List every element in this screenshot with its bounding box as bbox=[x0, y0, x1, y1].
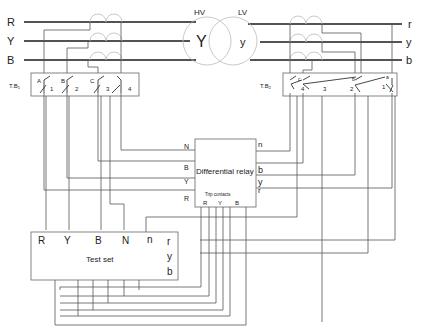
relay-trip-label: Trip contacts bbox=[205, 192, 231, 197]
lv-label: LV bbox=[238, 8, 248, 17]
test-set-bottom-wiring bbox=[78, 280, 139, 316]
relay-terminal-N: N bbox=[184, 143, 189, 150]
hv-winding-label: Y bbox=[196, 33, 207, 50]
lv-ct-wiring bbox=[290, 24, 392, 80]
trip-terminal-B: B bbox=[235, 200, 239, 206]
hv-label: HV bbox=[194, 8, 206, 17]
terminal-block-1 bbox=[31, 73, 139, 96]
tb1-label: T.B1 bbox=[9, 83, 21, 90]
hv-bus-lines bbox=[24, 22, 196, 60]
lv-bus-lines bbox=[248, 24, 402, 60]
relay-terminal-n: n bbox=[258, 140, 262, 149]
tb1-to-relay-wiring bbox=[44, 93, 195, 230]
bus-label-y: y bbox=[406, 36, 412, 48]
bus-label-b: b bbox=[406, 54, 412, 66]
tb1-letter-A: A bbox=[37, 78, 41, 84]
lv-winding-label: y bbox=[240, 36, 246, 48]
tb1-letter-C: C bbox=[90, 78, 95, 84]
test-terminal-B: B bbox=[95, 235, 102, 246]
relay-terminal-r: r bbox=[258, 186, 261, 195]
tb2-to-relay-wiring bbox=[146, 93, 395, 322]
bus-label-Y: Y bbox=[7, 35, 15, 47]
relay-terminal-R: R bbox=[184, 195, 189, 202]
bus-label-B: B bbox=[7, 54, 14, 66]
test-set-title: Test set bbox=[86, 255, 114, 264]
relay-terminal-Y: Y bbox=[184, 178, 189, 185]
tb1-letter-B: B bbox=[61, 78, 65, 84]
test-terminal-y: y bbox=[167, 251, 172, 262]
test-terminal-Y: Y bbox=[64, 235, 71, 246]
tb2-label: T.B2 bbox=[260, 83, 272, 90]
bus-label-R: R bbox=[7, 16, 15, 28]
trip-terminal-R: R bbox=[203, 200, 208, 206]
hv-ct-wiring bbox=[44, 22, 121, 80]
trip-terminal-Y: Y bbox=[218, 200, 222, 206]
test-terminal-N: N bbox=[122, 235, 129, 246]
hv-ct-coils bbox=[90, 14, 122, 60]
relay-terminal-b: b bbox=[258, 165, 263, 175]
tb2-letter-b: b bbox=[352, 76, 355, 82]
test-terminal-n: n bbox=[147, 234, 153, 245]
relay-title: Differential relay bbox=[196, 167, 254, 176]
test-terminal-R: R bbox=[38, 235, 45, 246]
lv-ct-coils bbox=[290, 16, 322, 60]
relay-terminal-B: B bbox=[184, 164, 189, 171]
bus-label-r: r bbox=[408, 18, 412, 30]
differential-relay-test-diagram: R Y B r y b HV LV Y y bbox=[0, 0, 421, 335]
transformer-symbol bbox=[183, 17, 257, 65]
tb2-letter-a: a bbox=[386, 74, 389, 80]
test-terminal-b: b bbox=[167, 266, 173, 277]
